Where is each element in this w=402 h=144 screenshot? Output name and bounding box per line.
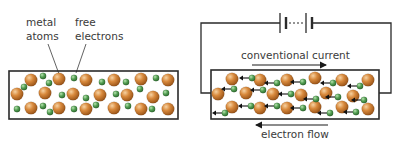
electron — [83, 95, 89, 101]
electron — [361, 97, 367, 103]
electron — [274, 103, 280, 109]
metal-atom — [362, 103, 375, 116]
electron — [71, 75, 77, 81]
electron — [113, 91, 119, 97]
electron — [46, 80, 52, 86]
right-panel: conventional current electron flow — [201, 13, 391, 140]
metal-atom — [80, 74, 93, 87]
electron — [163, 90, 169, 96]
conventional-current-label: conventional current — [241, 49, 350, 61]
metal-conduction-diagram: metal atoms free electrons conventional … — [0, 0, 402, 144]
electron — [353, 109, 359, 115]
electron — [222, 110, 228, 116]
metal-atom — [309, 72, 322, 85]
electron — [313, 96, 319, 102]
metal-atom — [226, 73, 239, 86]
metal-atom — [53, 102, 66, 115]
metal-atom — [336, 74, 349, 87]
electron — [153, 75, 159, 81]
metal-atom — [53, 73, 66, 86]
metal-atom — [147, 91, 160, 104]
metal-atom — [11, 88, 24, 101]
free-electrons-label: free electrons — [75, 16, 123, 42]
electron — [99, 79, 105, 85]
electron — [357, 83, 363, 89]
metal-atom — [281, 74, 294, 87]
electron — [249, 75, 255, 81]
electron — [125, 103, 131, 109]
metal-atom — [254, 102, 267, 115]
metal-atom — [362, 74, 375, 87]
electron — [21, 84, 27, 90]
electron — [47, 109, 53, 115]
electron — [40, 73, 46, 79]
metal-atom — [240, 87, 253, 100]
electron — [40, 103, 46, 109]
metal-atom — [80, 103, 93, 116]
electron — [300, 105, 306, 111]
free-electrons-pointer — [76, 44, 86, 73]
electron — [149, 106, 155, 112]
electron — [300, 79, 306, 85]
left-panel: metal atoms free electrons — [9, 16, 178, 119]
electron — [14, 106, 20, 112]
metal-atom — [135, 73, 148, 86]
metal-atom — [25, 74, 38, 87]
metal-atoms-label: metal atoms — [26, 16, 60, 42]
metal-atom — [135, 103, 148, 116]
battery-icon — [280, 13, 312, 33]
metal-atom — [67, 88, 80, 101]
metal-atom — [309, 101, 322, 114]
electron — [71, 106, 77, 112]
metal-atom — [121, 89, 134, 102]
metal-atom — [39, 87, 52, 100]
electron — [274, 80, 280, 86]
electron — [327, 110, 333, 116]
electron — [93, 102, 99, 108]
electron-flow-label: electron flow — [261, 128, 329, 140]
metal-atoms-pointer — [48, 44, 59, 74]
electron — [59, 92, 65, 98]
electron — [335, 94, 341, 100]
metal-atom — [162, 74, 175, 87]
electron — [288, 91, 294, 97]
metal-atom — [162, 103, 175, 116]
metal-atom — [108, 74, 121, 87]
electron — [248, 103, 254, 109]
electron — [123, 79, 129, 85]
metal-atom — [108, 102, 121, 115]
metal-atom — [25, 102, 38, 115]
metal-atom — [254, 74, 267, 87]
electron — [260, 87, 266, 93]
electron — [231, 86, 237, 92]
metal-atom — [94, 89, 107, 102]
electron — [137, 86, 143, 92]
electron — [330, 80, 336, 86]
metal-atom — [267, 88, 280, 101]
